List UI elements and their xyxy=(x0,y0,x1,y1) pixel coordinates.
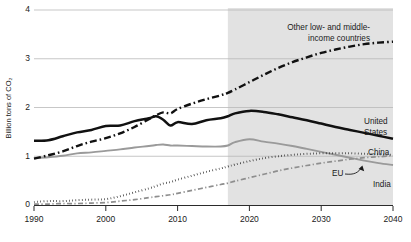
series-label-india: India xyxy=(373,180,391,189)
x-tick-label: 2020 xyxy=(240,214,259,224)
y-tick-label: 0 xyxy=(25,199,30,209)
co2-emissions-chart: 01234 Billion tons of CO₂ 19902000201020… xyxy=(0,0,411,242)
y-tick-label: 4 xyxy=(25,4,30,14)
x-tick-label: 2010 xyxy=(168,214,187,224)
y-axis-tick-labels: 01234 xyxy=(25,4,30,209)
y-tick-label: 1 xyxy=(25,151,30,161)
y-axis-title: Billion tons of CO₂ xyxy=(4,77,13,138)
y-tick-label: 3 xyxy=(25,53,30,63)
series-label-other-line2: income countries xyxy=(308,34,370,43)
x-axis-ticks xyxy=(34,206,393,211)
x-tick-label: 2040 xyxy=(384,214,403,224)
x-tick-label: 1990 xyxy=(25,214,44,224)
chart-canvas: 01234 Billion tons of CO₂ 19902000201020… xyxy=(0,0,411,242)
x-tick-label: 2000 xyxy=(96,214,115,224)
series-label-united-states-line1: United xyxy=(364,117,388,126)
x-axis-tick-labels: 199020002010202020302040 xyxy=(25,214,403,224)
series-label-china: China xyxy=(368,148,390,157)
x-tick-label: 2030 xyxy=(312,214,331,224)
series-label-united-states-line2: States xyxy=(364,128,387,137)
series-label-other-line1: Other low- and middle- xyxy=(287,23,370,32)
y-tick-label: 2 xyxy=(25,102,30,112)
series-label-eu: EU xyxy=(332,169,343,178)
